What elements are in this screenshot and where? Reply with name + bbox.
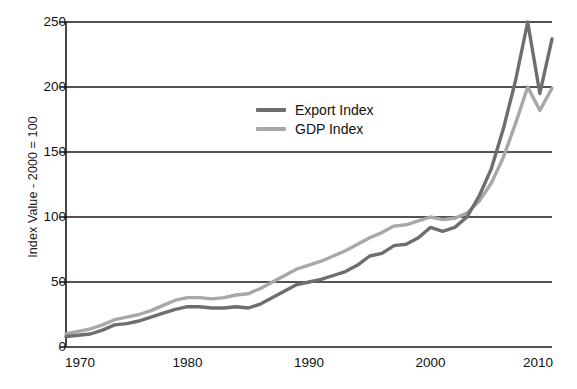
data-series-layer: [66, 22, 552, 337]
legend-swatch-export-index: [256, 108, 286, 112]
axis-lines: [66, 22, 552, 347]
legend-swatch-gdp-index: [256, 127, 286, 131]
legend-item-gdp-index: GDP Index: [256, 119, 406, 138]
series-line-export-index: [66, 22, 552, 337]
chart-legend: Export Index GDP Index: [256, 100, 406, 138]
legend-label-export-index: Export Index: [295, 103, 374, 117]
chart-figure: Index Value - 2000 = 100 050100150200250…: [0, 0, 577, 389]
plot-area: [0, 0, 577, 389]
legend-label-gdp-index: GDP Index: [295, 122, 363, 136]
y-axis-tick-marks: [60, 22, 66, 347]
legend-item-export-index: Export Index: [256, 100, 406, 119]
gridlines: [66, 22, 552, 282]
